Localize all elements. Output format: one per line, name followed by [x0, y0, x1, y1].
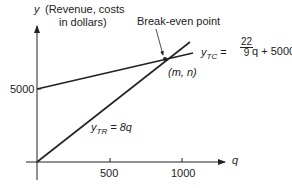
y-axis-note-line1: (Revenue, costs	[45, 3, 124, 15]
cost-eq-sub: TC	[207, 52, 218, 61]
break-even-arrow	[156, 29, 163, 55]
revenue-line	[37, 42, 190, 162]
revenue-equation: yTR = 8q	[91, 121, 132, 138]
cost-eq-rest: q + 5000	[252, 45, 292, 57]
break-even-label: Break-even point	[137, 15, 220, 27]
revenue-eq-rest: = 8q	[107, 121, 132, 133]
break-even-coordinates: (m, n)	[168, 66, 197, 78]
x-tick-label-1000: 1000	[171, 167, 195, 179]
cost-equation: yTC =	[201, 46, 227, 63]
cost-eq-equals: =	[217, 46, 226, 58]
y-tick-label-5000: 5000	[10, 83, 34, 95]
x-tick-label-500: 500	[100, 167, 118, 179]
y-axis-note-line2: in dollars)	[59, 16, 107, 28]
y-axis-label: y	[34, 3, 40, 15]
revenue-eq-sub: TR	[97, 127, 108, 136]
chart-canvas	[0, 0, 292, 188]
x-axis-label: q	[232, 154, 238, 166]
break-even-point-marker	[163, 57, 167, 61]
